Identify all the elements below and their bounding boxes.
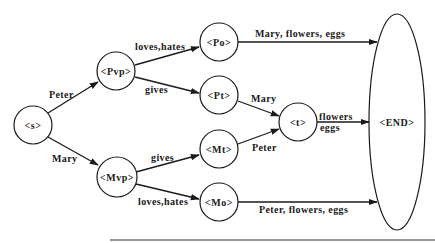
edge-label-mary-flowers-eggs: Mary, flowers, eggs [255,28,345,39]
edge-label-peter: Peter [49,89,74,100]
node-po-label: <Po> [207,37,232,48]
edge-label-mary-pt: Mary [251,93,276,104]
node-mt: <Mt> [200,130,238,168]
node-s: <s> [14,106,52,144]
node-pvp-label: <Pvp> [101,66,132,77]
edge-label-mary: Mary [52,153,77,164]
grammar-diagram: Peter Mary loves,hates gives gives loves… [0,0,435,243]
node-pt: <Pt> [200,76,238,114]
node-end: <END> [369,14,425,230]
node-s-label: <s> [25,120,42,131]
edge-label-eggs: eggs [320,122,340,133]
node-po: <Po> [200,23,238,61]
node-mt-label: <Mt> [206,144,232,155]
edge-label-gives-bottom: gives [151,152,174,163]
edge-label-peter-flowers-eggs: Peter, flowers, eggs [259,204,348,215]
edge-label-flowers: flowers [319,111,353,122]
node-t-label: <t> [290,117,306,128]
node-pvp: <Pvp> [97,52,135,90]
node-mvp-label: <Mvp> [100,172,134,183]
node-end-label: <END> [379,117,414,128]
node-mo-label: <Mo> [205,197,233,208]
edge-label-gives-top: gives [145,84,168,95]
edge-label-peter-mt: Peter [252,142,277,153]
node-pt-label: <Pt> [208,90,231,101]
node-mvp: <Mvp> [97,157,137,197]
edge-label-loves-hates-top: loves,hates [135,41,185,52]
node-t: <t> [279,103,317,141]
edge-label-loves-hates-bottom: loves,hates [138,196,188,207]
node-mo: <Mo> [200,183,238,221]
